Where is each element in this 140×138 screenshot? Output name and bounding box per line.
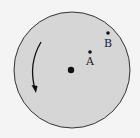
center-pivot (68, 67, 74, 73)
point-b-label: B (104, 37, 112, 50)
point-a (88, 50, 92, 54)
point-a-label: A (85, 55, 95, 68)
rotating-disk-diagram: A B (0, 0, 140, 138)
point-b (106, 31, 110, 35)
